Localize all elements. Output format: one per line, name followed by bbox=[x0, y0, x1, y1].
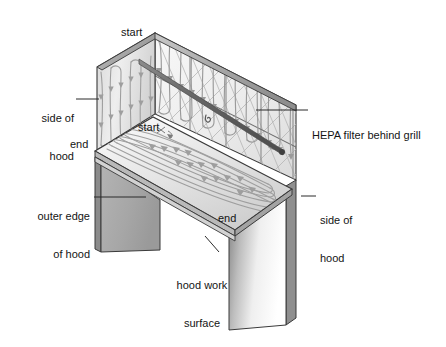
callout-line: hood bbox=[0, 150, 74, 163]
callout-line: outer edge bbox=[0, 210, 90, 223]
marker-end-surface: end bbox=[218, 212, 236, 225]
callout-line: hood bbox=[320, 252, 352, 265]
callout-line: side of bbox=[320, 214, 352, 227]
hood-structure bbox=[95, 20, 400, 330]
leader-hood-work-surface bbox=[205, 236, 219, 252]
callout-outer-edge-of-hood: outer edge of hood bbox=[0, 185, 90, 273]
marker-start-grill: start bbox=[121, 26, 142, 39]
callout-hepa-filter-behind-grill: HEPA filter behind grill bbox=[312, 104, 421, 154]
callout-hood-work-surface: hood work surface bbox=[160, 254, 244, 342]
callout-line: HEPA filter behind grill bbox=[312, 129, 421, 142]
callout-line: surface bbox=[160, 317, 244, 330]
callout-line: side of bbox=[0, 112, 74, 125]
callout-side-of-hood-left: side of hood bbox=[0, 87, 74, 175]
marker-start-surface: start bbox=[138, 121, 159, 134]
callout-line: hood work bbox=[160, 279, 244, 292]
callout-side-of-hood-right: side of hood bbox=[320, 189, 352, 277]
callout-line: of hood bbox=[0, 248, 90, 261]
marker-end-grill: end bbox=[70, 138, 88, 151]
